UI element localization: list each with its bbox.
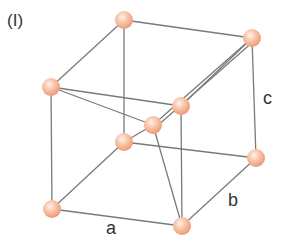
axis-label-b: b	[228, 192, 238, 208]
panel-label: (I)	[7, 13, 23, 29]
atom-bottom-back-left	[115, 133, 133, 151]
atom-bottom-back-right	[247, 149, 265, 167]
axis-label-a: a	[106, 220, 116, 236]
atom-top-back-left	[115, 11, 133, 29]
atom-bottom-front-right	[173, 217, 191, 235]
atom-top-front-left	[42, 78, 60, 96]
atom-body-center	[144, 116, 162, 134]
atom-bottom-front-left	[43, 200, 61, 218]
atom-top-front-right	[172, 97, 190, 115]
atom-top-back-right	[243, 29, 261, 47]
axis-label-c: c	[263, 90, 272, 106]
unit-cell-diagram	[0, 0, 284, 242]
